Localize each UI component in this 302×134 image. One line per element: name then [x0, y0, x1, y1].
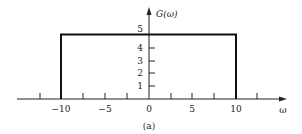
y-tick-label: 1: [137, 81, 143, 91]
figure-caption: (a): [143, 121, 155, 131]
chart-canvas: −10 −5 0 5 10 1 2 3 4 5 G(ω) ω (a): [0, 0, 302, 134]
x-tick-label: 0: [146, 104, 152, 114]
x-tick-label: 5: [189, 104, 195, 114]
y-axis-arrow-icon: [147, 7, 152, 15]
x-tick-label: −10: [52, 104, 71, 114]
y-ticks: [149, 48, 155, 86]
x-tick-label: −5: [98, 104, 112, 114]
x-axis-arrow-icon: [279, 97, 287, 102]
x-tick-label: 10: [230, 104, 242, 114]
y-tick-label: 5: [137, 24, 143, 34]
y-axis-label: G(ω): [156, 9, 178, 19]
y-tick-label: 3: [137, 56, 143, 66]
y-tick-label: 4: [137, 43, 143, 53]
x-axis-label: ω: [279, 105, 286, 115]
y-tick-label: 2: [137, 68, 143, 78]
